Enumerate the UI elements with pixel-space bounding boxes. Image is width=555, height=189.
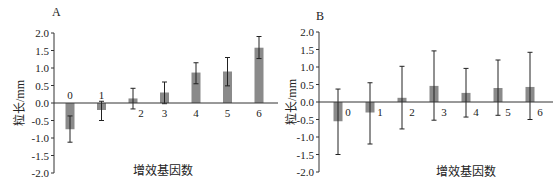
y-tick-label: -1.5 xyxy=(297,149,315,161)
y-tick-label: 1.5 xyxy=(300,44,314,56)
y-tick-label: -1.5 xyxy=(32,150,50,162)
y-tick-label: 0.0 xyxy=(300,96,314,108)
y-tick-label: -1.0 xyxy=(32,132,50,144)
x-tick-label: 4 xyxy=(473,106,479,118)
x-tick-label: 5 xyxy=(505,106,511,118)
x-tick-label: 2 xyxy=(138,107,144,119)
x-tick-label: 0 xyxy=(345,106,351,118)
y-axis-label: 粒长/mm xyxy=(284,78,299,125)
y-tick-label: 0.5 xyxy=(35,80,49,92)
x-tick-label: 2 xyxy=(409,106,415,118)
x-tick-label: 6 xyxy=(256,107,262,119)
y-tick-label: -2.0 xyxy=(297,166,315,178)
chart-canvas: A2.01.51.00.50.0-0.5-1.0-1.5-2.0粒长/mm012… xyxy=(0,0,555,189)
y-tick-label: -0.5 xyxy=(297,114,315,126)
x-tick-label: 0 xyxy=(67,89,73,101)
x-tick-label: 1 xyxy=(377,106,383,118)
x-tick-label: 3 xyxy=(162,107,168,119)
x-tick-label: 1 xyxy=(99,89,105,101)
x-tick-label: 4 xyxy=(193,107,199,119)
y-tick-label: -0.5 xyxy=(32,115,50,127)
y-tick-label: 0.0 xyxy=(35,97,49,109)
x-tick-label: 5 xyxy=(225,107,231,119)
x-axis-label: 增效基因数 xyxy=(436,164,496,179)
y-tick-label: 2.0 xyxy=(300,26,314,38)
x-axis-label: 增效基因数 xyxy=(133,163,193,178)
y-tick-label: 1.0 xyxy=(300,61,314,73)
y-tick-label: -1.0 xyxy=(297,131,315,143)
y-axis-label: 粒长/mm xyxy=(12,79,27,126)
y-tick-label: 2.0 xyxy=(35,27,49,39)
x-tick-label: 6 xyxy=(537,106,543,118)
y-tick-label: 1.0 xyxy=(35,62,49,74)
y-tick-label: 0.5 xyxy=(300,79,314,91)
chart-panel-a: A2.01.51.00.50.0-0.5-1.0-1.5-2.0粒长/mm012… xyxy=(12,5,278,179)
panel-label: A xyxy=(52,5,61,19)
x-tick-label: 3 xyxy=(441,106,447,118)
y-tick-label: -2.0 xyxy=(32,167,50,179)
chart-panel-b: B2.01.51.00.50.0-0.5-1.0-1.5-2.0粒长/mm012… xyxy=(284,9,553,179)
y-tick-label: 1.5 xyxy=(35,45,49,57)
panel-label: B xyxy=(316,9,324,23)
